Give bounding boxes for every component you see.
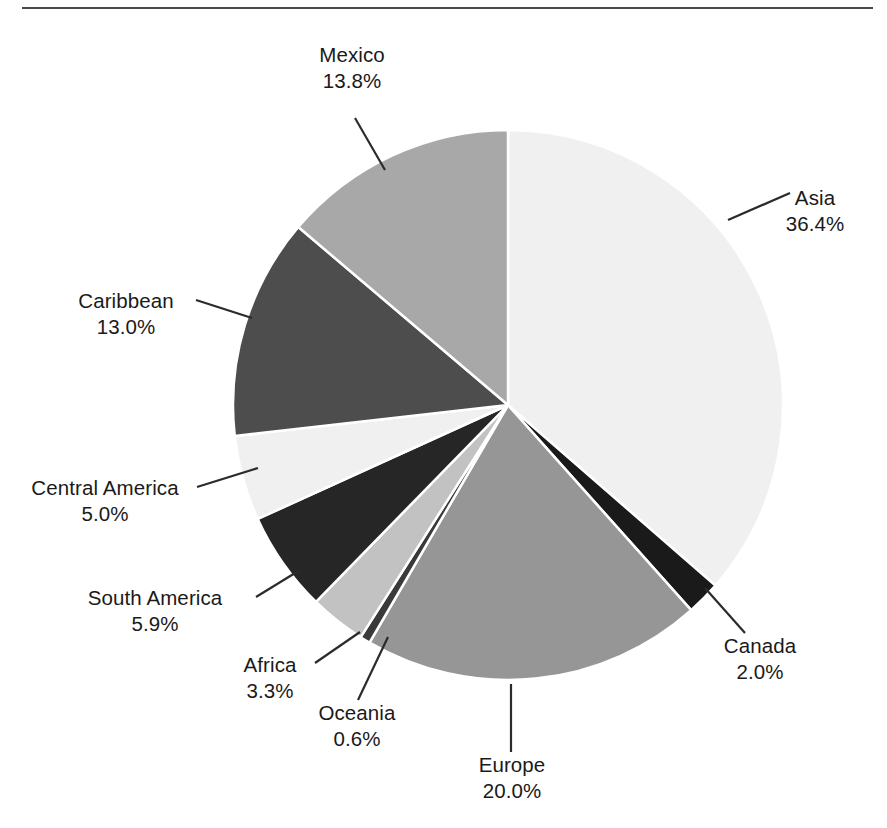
slice-label-central-america-value: 5.0% bbox=[10, 501, 200, 527]
slice-label-caribbean-value: 13.0% bbox=[56, 314, 196, 340]
slice-label-africa: Africa 3.3% bbox=[222, 652, 318, 704]
slice-label-asia-value: 36.4% bbox=[750, 211, 880, 237]
slice-label-oceania-value: 0.6% bbox=[292, 726, 422, 752]
slice-label-oceania: Oceania 0.6% bbox=[292, 700, 422, 752]
slice-label-asia-name: Asia bbox=[750, 185, 880, 211]
leader-line-caribbean bbox=[196, 300, 252, 318]
slice-label-canada: Canada 2.0% bbox=[690, 633, 830, 685]
leader-line-mexico bbox=[355, 118, 385, 170]
leader-line-south-america bbox=[256, 570, 300, 597]
slice-label-mexico: Mexico 13.8% bbox=[262, 42, 442, 94]
pie-chart-figure: Asia 36.4%Canada 2.0%Europe 20.0%Oceania… bbox=[0, 0, 887, 828]
slice-label-oceania-name: Oceania bbox=[292, 700, 422, 726]
slice-label-caribbean: Caribbean 13.0% bbox=[56, 288, 196, 340]
leader-line-canada bbox=[705, 588, 745, 633]
leader-line-oceania bbox=[358, 637, 388, 700]
slice-label-europe: Europe 20.0% bbox=[448, 752, 576, 804]
slice-label-caribbean-name: Caribbean bbox=[56, 288, 196, 314]
slice-label-mexico-value: 13.8% bbox=[262, 68, 442, 94]
slice-label-south-america-value: 5.9% bbox=[60, 611, 250, 637]
slice-label-south-america: South America 5.9% bbox=[60, 585, 250, 637]
slice-label-mexico-name: Mexico bbox=[262, 42, 442, 68]
slice-label-central-america-name: Central America bbox=[10, 475, 200, 501]
slice-label-asia: Asia 36.4% bbox=[750, 185, 880, 237]
slice-label-europe-name: Europe bbox=[448, 752, 576, 778]
slice-label-canada-name: Canada bbox=[690, 633, 830, 659]
leader-line-africa bbox=[315, 632, 360, 663]
pie-slice-group: Asia 36.4%Canada 2.0%Europe 20.0%Oceania… bbox=[233, 130, 783, 680]
slice-label-africa-name: Africa bbox=[222, 652, 318, 678]
slice-label-central-america: Central America 5.0% bbox=[10, 475, 200, 527]
slice-label-south-america-name: South America bbox=[60, 585, 250, 611]
slice-label-europe-value: 20.0% bbox=[448, 778, 576, 804]
pie-chart-canvas: Asia 36.4%Canada 2.0%Europe 20.0%Oceania… bbox=[0, 0, 887, 828]
slice-label-canada-value: 2.0% bbox=[690, 659, 830, 685]
